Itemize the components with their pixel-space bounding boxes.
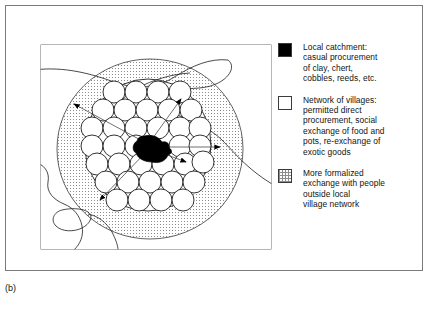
exchange-network-diagram — [40, 44, 272, 250]
figure-caption: (b) — [5, 283, 16, 294]
legend-label-formalized-exchange: More formalized exchange with people out… — [303, 168, 385, 210]
figure-root: Local catchment: casual procurement of c… — [0, 0, 432, 311]
legend-item-formalized-exchange: More formalized exchange with people out… — [278, 168, 424, 210]
legend-item-network-of-villages: Network of villages: permitted direct pr… — [278, 95, 424, 157]
legend-label-network-of-villages: Network of villages: permitted direct pr… — [303, 95, 385, 157]
diagram-panel — [40, 44, 272, 250]
legend-label-local-catchment: Local catchment: casual procurement of c… — [303, 42, 377, 84]
legend-item-local-catchment: Local catchment: casual procurement of c… — [278, 42, 424, 84]
legend-swatch-solid-black-square — [278, 43, 292, 57]
legend: Local catchment: casual procurement of c… — [278, 42, 424, 221]
legend-swatch-stippled-square — [278, 169, 292, 183]
legend-swatch-empty-white-square — [278, 96, 292, 110]
